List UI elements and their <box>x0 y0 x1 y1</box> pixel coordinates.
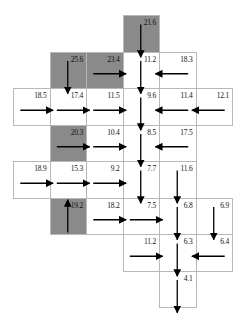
flow-arrows-layer <box>0 0 248 330</box>
